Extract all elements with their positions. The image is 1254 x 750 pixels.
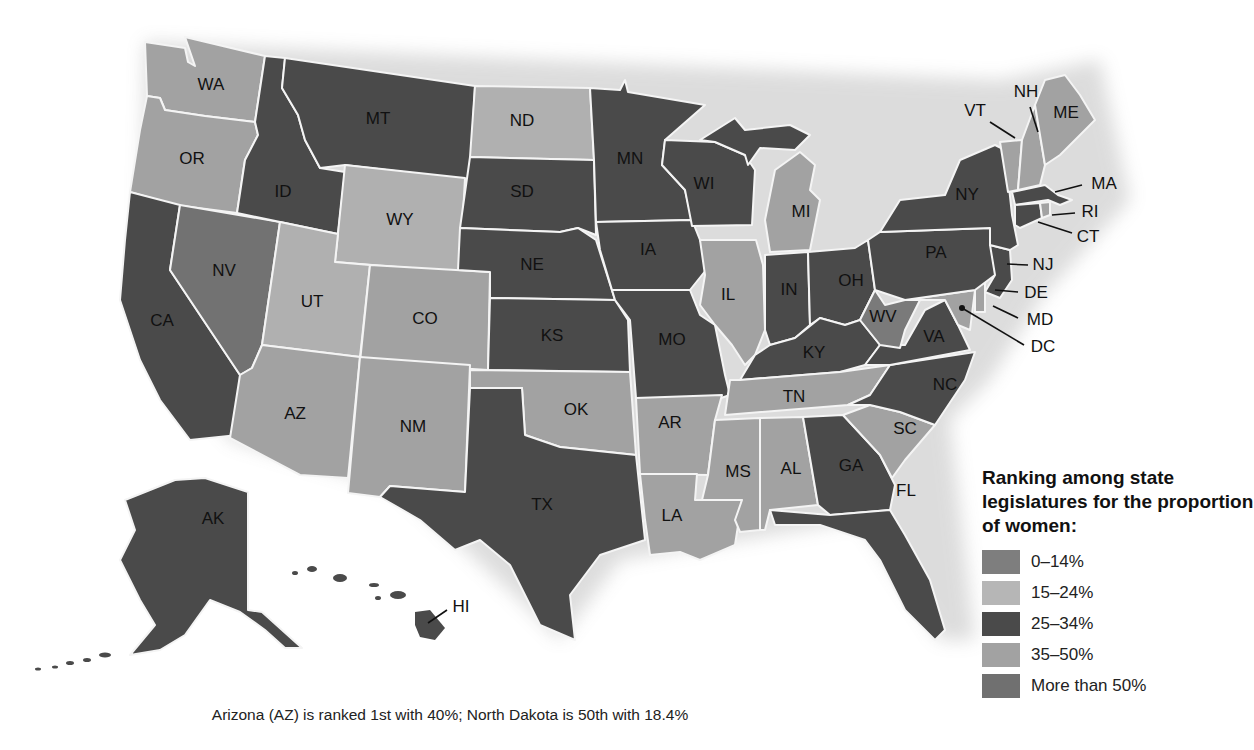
svg-text:WI: WI [694, 174, 715, 193]
svg-text:ND: ND [510, 111, 535, 130]
state-HI[interactable] [292, 566, 445, 640]
svg-text:TX: TX [531, 495, 553, 514]
svg-text:AR: AR [658, 413, 682, 432]
svg-text:NE: NE [520, 255, 544, 274]
svg-text:IN: IN [781, 280, 798, 299]
svg-text:MT: MT [366, 109, 391, 128]
svg-text:OK: OK [564, 400, 589, 419]
svg-text:HI: HI [453, 597, 470, 616]
legend-label: 0–14% [1031, 552, 1084, 572]
state-AK[interactable] [120, 478, 302, 655]
legend-title: Ranking among state legislatures for the… [982, 466, 1254, 538]
svg-text:LA: LA [662, 506, 683, 525]
svg-text:TN: TN [783, 387, 806, 406]
svg-text:NC: NC [933, 375, 958, 394]
svg-text:ME: ME [1053, 103, 1079, 122]
map-caption: Arizona (AZ) is ranked 1st with 40%; Nor… [0, 706, 900, 724]
svg-text:SC: SC [893, 419, 917, 438]
svg-text:DE: DE [1024, 283, 1048, 302]
svg-text:AZ: AZ [284, 404, 306, 423]
legend-swatch [982, 581, 1020, 605]
legend-swatch [982, 643, 1020, 667]
svg-text:NH: NH [1014, 82, 1039, 101]
svg-text:IA: IA [640, 240, 657, 259]
svg-text:PA: PA [925, 243, 947, 262]
svg-text:WY: WY [386, 210, 413, 229]
svg-text:MD: MD [1027, 310, 1053, 329]
svg-text:UT: UT [301, 292, 324, 311]
legend-label: 35–50% [1031, 645, 1093, 665]
svg-text:OR: OR [179, 149, 205, 168]
svg-text:CA: CA [150, 311, 174, 330]
legend: Ranking among state legislatures for the… [982, 466, 1254, 701]
svg-text:MS: MS [725, 462, 751, 481]
caption-text: Arizona (AZ) is ranked 1st with 40%; Nor… [212, 706, 688, 723]
svg-text:ID: ID [275, 182, 292, 201]
svg-text:AK: AK [202, 509, 225, 528]
svg-text:SD: SD [510, 182, 534, 201]
svg-text:MN: MN [617, 149, 643, 168]
svg-text:NM: NM [400, 417, 426, 436]
svg-text:GA: GA [839, 456, 864, 475]
svg-text:DC: DC [1031, 337, 1056, 356]
legend-swatch [982, 550, 1020, 574]
svg-text:VT: VT [964, 101, 986, 120]
svg-text:CT: CT [1077, 227, 1100, 246]
legend-label: 25–34% [1031, 614, 1093, 634]
legend-item-35-50: 35–50% [982, 639, 1254, 670]
svg-text:VA: VA [923, 327, 945, 346]
svg-text:NY: NY [955, 185, 979, 204]
svg-text:CO: CO [412, 309, 438, 328]
svg-text:WA: WA [198, 75, 225, 94]
legend-label: More than 50% [1031, 676, 1146, 696]
legend-item-15-24: 15–24% [982, 577, 1254, 608]
svg-text:AL: AL [781, 459, 802, 478]
svg-text:OH: OH [838, 271, 864, 290]
state-RI[interactable] [1040, 202, 1050, 218]
legend-item-0-14: 0–14% [982, 546, 1254, 577]
svg-text:WV: WV [869, 307, 897, 326]
svg-text:RI: RI [1082, 202, 1099, 221]
legend-swatch [982, 674, 1020, 698]
legend-label: 15–24% [1031, 583, 1093, 603]
svg-text:KS: KS [541, 326, 564, 345]
svg-text:IL: IL [721, 285, 735, 304]
svg-text:NV: NV [212, 261, 236, 280]
svg-text:KY: KY [803, 343, 826, 362]
legend-item-over-50: More than 50% [982, 670, 1254, 701]
svg-text:MI: MI [792, 202, 811, 221]
svg-text:MA: MA [1091, 174, 1117, 193]
legend-item-25-34: 25–34% [982, 608, 1254, 639]
svg-text:NJ: NJ [1033, 255, 1054, 274]
svg-text:FL: FL [896, 481, 916, 500]
svg-text:MO: MO [658, 330, 685, 349]
legend-swatch [982, 612, 1020, 636]
